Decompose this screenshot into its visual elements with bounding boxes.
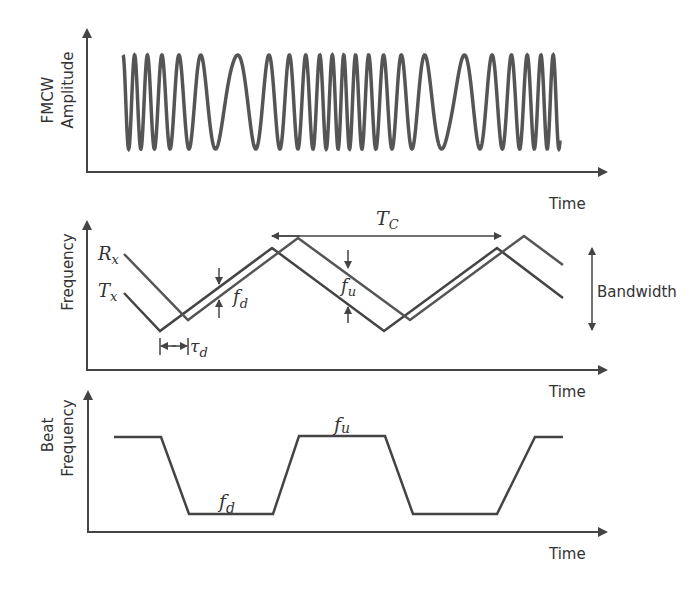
frequency-panel: Frequency Time Rx Tx TC fd fu τd Bandwid… xyxy=(59,207,677,401)
fmcw-chirp-wave xyxy=(123,55,560,149)
amplitude-panel: FMCW Amplitude Time xyxy=(39,30,606,213)
tau-label: τd xyxy=(190,336,208,360)
tx-label: Tx xyxy=(98,280,118,304)
beat-fd-label: fd xyxy=(217,490,235,516)
amplitude-ylabel-line2: Amplitude xyxy=(59,52,77,129)
beat-frequency-line xyxy=(114,436,563,514)
fmcw-diagram: FMCW Amplitude Time Frequency Time Rx Tx… xyxy=(0,0,697,591)
rx-label: Rx xyxy=(97,243,120,267)
fd-label: fd xyxy=(231,286,248,311)
beat-xlabel: Time xyxy=(548,545,586,563)
tc-label: TC xyxy=(376,207,399,232)
beat-fu-label: fu xyxy=(332,413,350,436)
amplitude-ylabel-line1: FMCW xyxy=(39,76,57,123)
bandwidth-label: Bandwidth xyxy=(597,283,677,301)
beat-ylabel-line2: Frequency xyxy=(59,399,77,477)
amplitude-xlabel: Time xyxy=(548,195,586,213)
frequency-xlabel: Time xyxy=(548,383,586,401)
beat-panel: Beat Frequency Time fu fd xyxy=(39,392,606,563)
beat-ylabel-line1: Beat xyxy=(39,418,57,453)
frequency-ylabel: Frequency xyxy=(59,233,77,311)
